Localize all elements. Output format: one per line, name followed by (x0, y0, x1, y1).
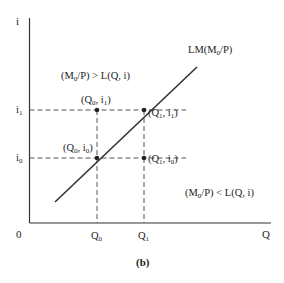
point-q1-i1 (142, 108, 147, 113)
tick-i1: i1 (16, 104, 23, 117)
label-q0-i0: (Q0, i0) (63, 142, 93, 155)
point-q1-i0 (142, 156, 147, 161)
label-q1-i1: (Q1, i1) (148, 107, 178, 120)
lm-curve (55, 67, 197, 202)
tick-q0: Q0 (91, 230, 103, 243)
tick-i0: i0 (16, 152, 23, 165)
label-q1-i0: (Q1, i0) (148, 153, 178, 166)
tick-q1: Q1 (138, 230, 150, 243)
region-excess-demand-label: (M0/P) < L(Q, i) (185, 187, 254, 200)
label-q0-i1: (Q0, i1) (81, 94, 111, 107)
figure-caption: (b) (136, 256, 150, 269)
lm-curve-label: LM(M0/P) (188, 44, 233, 57)
x-axis-label: Q (262, 228, 270, 240)
diagram-canvas: i Q 0 i1 i0 Q0 Q1 LM(M0/P) (Q0, i1) (Q1,… (0, 0, 284, 283)
lm-diagram: i Q 0 i1 i0 Q0 Q1 LM(M0/P) (Q0, i1) (Q1,… (0, 0, 284, 283)
origin-label: 0 (16, 228, 22, 240)
point-q0-i1 (95, 108, 100, 113)
region-excess-supply-label: (M0/P) > L(Q, i) (61, 70, 130, 83)
y-axis-label: i (16, 15, 19, 27)
point-q0-i0 (95, 156, 100, 161)
